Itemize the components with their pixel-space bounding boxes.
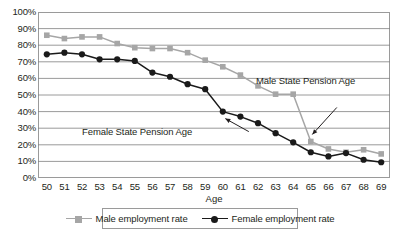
legend-label-male: Male employment rate [96,213,188,224]
annotation-arrow-female [225,119,249,132]
data-point [238,72,244,78]
legend-item-male: Male employment rate [66,213,188,224]
data-point [308,149,314,155]
chart-legend: Male employment rate Female employment r… [102,208,298,229]
data-point [378,159,384,165]
data-point [97,56,103,62]
data-point [167,46,173,52]
data-point [185,81,191,87]
annotation-female-state-pension-age: Female State Pension Age [82,126,192,137]
data-point [202,86,208,92]
plot-canvas [38,12,390,178]
data-point [361,157,367,163]
data-point [114,56,120,62]
legend-label-female: Female employment rate [232,213,335,224]
y-tick-label: 60% [2,73,36,83]
data-point [325,153,331,159]
data-point [290,91,296,97]
data-point [132,58,138,64]
y-tick-label: 50% [2,90,36,100]
data-point [185,50,191,56]
data-point [167,74,173,80]
y-tick-label: 40% [2,107,36,117]
data-point [44,32,50,38]
data-point [62,36,68,42]
y-tick-label: 0% [2,173,36,183]
data-point [237,113,243,119]
data-point [132,45,138,51]
data-point [79,51,85,57]
data-point [44,51,50,57]
x-axis-title: Age [38,193,390,204]
data-point [273,130,279,136]
y-tick-label: 10% [2,156,36,166]
data-point [378,151,384,157]
data-point [220,109,226,115]
data-point [290,139,296,145]
legend-item-female: Female employment rate [202,213,335,224]
data-point [97,34,103,40]
y-tick-label: 100% [2,7,36,17]
y-tick-label: 30% [2,123,36,133]
data-point [61,50,67,56]
data-point [308,139,314,145]
data-point [149,69,155,75]
data-point [273,91,279,97]
data-point [220,64,226,70]
data-point [326,146,332,152]
y-tick-label: 20% [2,140,36,150]
y-tick-label: 80% [2,40,36,50]
female-series-marker-icon [202,214,228,224]
y-tick-label: 70% [2,57,36,67]
x-tick-label: 69 [371,181,391,192]
data-point [343,150,349,156]
y-axis: 100%90%80%70%60%50%40%30%20%10%0% [0,0,36,237]
series-line-female [47,53,381,163]
data-point [79,34,85,40]
data-point [202,57,208,63]
data-point [114,41,120,47]
data-point [150,46,156,52]
annotation-male-state-pension-age: Male State Pension Age [256,75,355,86]
employment-rate-by-age-chart: 100%90%80%70%60%50%40%30%20%10%0% Female… [0,0,398,237]
male-series-marker-icon [66,214,92,224]
data-point [361,147,367,153]
y-tick-label: 90% [2,24,36,34]
data-point [255,120,261,126]
